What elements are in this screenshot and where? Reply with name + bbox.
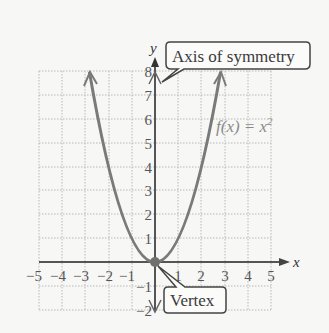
svg-text:3: 3 <box>221 268 229 284</box>
parabola-chart: x y −5 −4 −3 −2 −1 1 2 3 4 5 8 7 6 5 4 3… <box>0 0 329 333</box>
svg-text:2: 2 <box>145 207 153 223</box>
svg-text:5: 5 <box>145 136 153 152</box>
svg-text:−3: −3 <box>73 268 89 284</box>
svg-text:6: 6 <box>145 112 153 128</box>
svg-text:−2: −2 <box>136 303 152 319</box>
svg-text:4: 4 <box>145 160 153 176</box>
svg-text:7: 7 <box>145 88 153 104</box>
svg-text:−2: −2 <box>97 268 113 284</box>
vertex-label: Vertex <box>170 291 215 310</box>
y-axis-arrow-icon <box>151 57 159 67</box>
y-tick-labels: 8 7 6 5 4 3 2 1 −1 −2 <box>136 64 152 319</box>
svg-text:8: 8 <box>145 64 153 80</box>
svg-text:2: 2 <box>197 268 205 284</box>
x-axis-arrow-icon <box>279 258 290 266</box>
svg-text:−1: −1 <box>119 268 135 284</box>
svg-text:3: 3 <box>145 183 153 199</box>
x-axis-label: x <box>292 254 300 270</box>
vertex-callout: Vertex <box>158 266 226 313</box>
function-label: f(x) = x2 <box>216 115 273 136</box>
svg-text:−5: −5 <box>26 268 42 284</box>
svg-text:−4: −4 <box>50 268 66 284</box>
axis-of-symmetry-callout: Axis of symmetry <box>162 42 310 82</box>
svg-text:5: 5 <box>267 268 275 284</box>
svg-text:4: 4 <box>244 268 252 284</box>
y-axis: y <box>148 40 161 312</box>
svg-text:1: 1 <box>145 231 153 247</box>
svg-text:−1: −1 <box>136 279 152 295</box>
axis-of-symmetry-label: Axis of symmetry <box>172 47 295 66</box>
y-axis-label: y <box>148 40 157 56</box>
